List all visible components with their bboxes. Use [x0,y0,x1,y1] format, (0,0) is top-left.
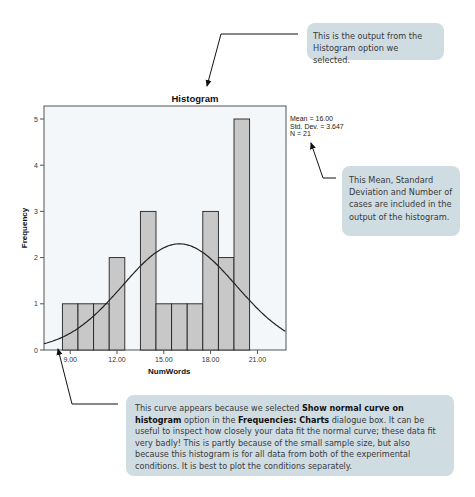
histogram-bar [172,304,188,350]
stats-std-dev: Std. Dev. = 3.647 [290,123,344,131]
curve-callout-text-1: This curve appears because we selected [135,403,302,413]
histogram-bar [94,304,110,350]
y-tick-label: 0 [34,347,38,354]
y-tick-label: 3 [34,208,38,215]
top-callout-pointer-arrow [207,34,298,86]
stats-callout-pointer-arrow [311,143,336,178]
x-axis: 9.0012.0015.0018.0021.00 [63,350,266,363]
x-tick-label: 18.00 [202,356,220,363]
stats-legend: Mean = 16.00 Std. Dev. = 3.647 N = 21 [290,115,344,138]
x-tick-label: 21.00 [249,356,267,363]
y-tick-label: 4 [34,162,38,169]
stats-explanation-callout: This Mean, Standard Deviation and Number… [342,166,460,236]
curve-callout-text-2: option in the [181,415,238,425]
stats-mean: Mean = 16.00 [290,115,344,123]
chart-title: Histogram [172,93,219,104]
histogram-bar [218,258,234,350]
histogram-bar [109,258,125,350]
histogram-bar [203,211,219,350]
normal-curve-callout: This curve appears because we selected S… [126,395,454,476]
x-tick-label: 12.00 [108,356,126,363]
y-tick-label: 5 [34,116,38,123]
histogram-output-callout: This is the output from the Histogram op… [307,23,444,60]
curve-callout-dialog-name: Frequencies: Charts [238,415,329,425]
stats-n: N = 21 [290,130,344,138]
y-tick-label: 2 [34,254,38,261]
y-axis: 012345 [34,116,44,354]
x-tick-label: 9.00 [63,356,77,363]
histogram-bar [156,304,172,350]
y-axis-label: Frequency [20,207,29,248]
x-axis-label: NumWords [148,367,191,376]
histogram-bar [234,119,250,350]
x-tick-label: 15.00 [155,356,173,363]
stats-explanation-callout-text: This Mean, Standard Deviation and Number… [349,175,452,222]
histogram-bar [62,304,78,350]
y-tick-label: 1 [34,300,38,307]
histogram-bar [187,304,203,350]
histogram-bar [140,211,156,350]
histogram-output-callout-text: This is the output from the Histogram op… [313,31,422,65]
